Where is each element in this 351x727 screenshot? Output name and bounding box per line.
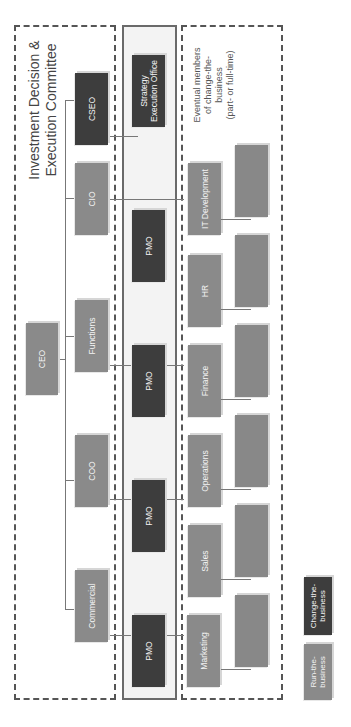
member-placeholder — [235, 235, 268, 307]
legend-label: Run-the- — [309, 656, 318, 688]
dept-it-development: IT Development — [188, 163, 221, 235]
exec-cseo: CSEO — [75, 73, 108, 145]
exec-bus — [65, 100, 66, 610]
dept-label: Marketing — [199, 632, 209, 669]
note-line: Eventual members — [192, 35, 203, 135]
exec-drop-cseo — [65, 100, 75, 101]
dept-member-connector — [221, 489, 251, 490]
exec-label: CSEO — [87, 97, 97, 121]
exec-commercial: Commercial — [75, 570, 108, 642]
exec-coo: COO — [75, 435, 108, 507]
committee-title: Investment Decision & Execution Committe… — [26, 35, 60, 185]
legend-label: business — [318, 656, 327, 688]
dept-member-connector — [221, 399, 251, 400]
title-line-2: Execution Committee — [43, 35, 60, 185]
dept-label: Finance — [200, 366, 210, 396]
pmo-box: PMO — [132, 210, 165, 282]
seo-label-line-2: Execution Office — [149, 60, 159, 122]
exec-drop-cio — [65, 198, 75, 199]
cseo-to-seo-line — [108, 136, 138, 137]
exec-functions: Functions — [75, 300, 108, 372]
dept-member-connector — [221, 309, 251, 310]
note-line: of change-the- — [203, 35, 214, 135]
dept-label: Operations — [200, 450, 210, 492]
ceo-label: CEO — [37, 350, 47, 368]
member-placeholder — [235, 415, 268, 487]
pmo-label: PMO — [144, 641, 154, 660]
pmo-label: PMO — [144, 506, 154, 525]
dept-hr: HR — [188, 255, 221, 327]
member-placeholder — [235, 145, 268, 217]
legend-change-the-business: Change-the-business — [304, 577, 332, 635]
legend-label: business — [318, 584, 327, 628]
title-line-1: Investment Decision & — [26, 35, 43, 185]
dept-label: Sales — [200, 550, 210, 571]
strategy-execution-office: StrategyExecution Office — [132, 55, 165, 127]
ceo-box: CEO — [26, 323, 58, 395]
exec-label: COO — [87, 461, 97, 480]
exec-drop-functions — [65, 336, 75, 337]
exec-label: Commercial — [87, 583, 97, 628]
dept-member-connector — [221, 669, 251, 670]
exec-drop-commercial — [65, 609, 75, 610]
pmo-box: PMO — [132, 345, 165, 417]
dept-member-connector — [221, 219, 251, 220]
exec-cio: CIO — [75, 163, 108, 235]
dept-label: HR — [200, 285, 210, 297]
exec-drop-coo — [65, 480, 75, 481]
pmo-box: PMO — [132, 480, 165, 552]
cross-line-cio — [108, 199, 184, 200]
org-chart: Investment Decision & Execution Committe… — [0, 0, 351, 727]
eventual-members-note: Eventual members of change-the- business… — [192, 35, 236, 135]
pmo-box: PMO — [132, 615, 165, 687]
member-placeholder — [235, 595, 268, 667]
member-placeholder — [235, 505, 268, 577]
legend-label: Change-the- — [309, 584, 318, 628]
seo-label-line-1: Strategy — [139, 60, 149, 122]
pmo-label: PMO — [144, 371, 154, 390]
legend-run-the-business: Run-the-business — [304, 644, 332, 700]
dept-label: IT Development — [200, 169, 210, 229]
note-line: business — [214, 35, 225, 135]
dept-marketing: Marketing — [187, 615, 220, 687]
dept-finance: Finance — [188, 345, 221, 417]
dept-operations: Operations — [188, 435, 221, 507]
pmo-label: PMO — [144, 236, 154, 255]
dept-member-connector — [221, 579, 251, 580]
note-line: (part- or full-time) — [225, 35, 236, 135]
exec-label: CIO — [87, 191, 97, 206]
dept-sales: Sales — [188, 525, 221, 597]
exec-label: Functions — [87, 318, 97, 355]
member-placeholder — [235, 325, 268, 397]
